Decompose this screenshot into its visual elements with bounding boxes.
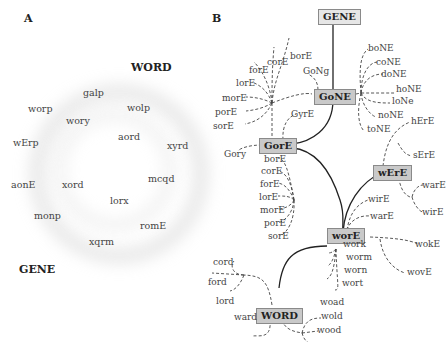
- leaf-word: lorE: [259, 193, 278, 202]
- leaf-word: sorE: [213, 122, 234, 131]
- leaf-word: woad: [320, 298, 344, 307]
- leaf-word: lorE: [236, 79, 255, 88]
- leaf-word: warE: [422, 181, 446, 190]
- leaf-word: ward: [234, 313, 257, 322]
- leaf-word: cord: [213, 258, 234, 267]
- leaf-word: loNe: [392, 97, 414, 106]
- leaf-word: ford: [208, 278, 227, 287]
- leaf-word: forE: [249, 66, 269, 75]
- leaf-word: worn: [344, 266, 367, 275]
- leaf-word: sErE: [413, 151, 435, 160]
- leaf-word: wirE: [422, 208, 443, 217]
- leaf-word: hErE: [411, 117, 434, 126]
- leaf-word: borE: [290, 52, 312, 61]
- leaf-word: doNE: [381, 70, 407, 79]
- leaf-word: worm: [346, 253, 372, 262]
- leaf-word: warE: [370, 212, 394, 221]
- leaf-word: coNE: [376, 58, 401, 67]
- leaf-word: wold: [321, 312, 343, 321]
- leaf-word: wokE: [415, 240, 440, 249]
- leaf-word: wood: [317, 326, 341, 335]
- leaf-word: wovE: [407, 268, 432, 277]
- node-gone: GoNE: [314, 89, 356, 105]
- leaf-word: hoNE: [396, 85, 422, 94]
- leaf-word: forE: [260, 180, 280, 189]
- leaf-word: sorE: [268, 232, 289, 241]
- leaf-word: work: [343, 240, 366, 249]
- node-gore: GorE: [259, 138, 297, 154]
- leaf-word: borE: [264, 155, 286, 164]
- leaf-word: toNE: [367, 125, 390, 134]
- node-word: WORD: [256, 308, 303, 324]
- leaf-word: morE: [222, 94, 247, 103]
- leaf-word: corE: [261, 167, 282, 176]
- leaf-word: corE: [267, 58, 288, 67]
- leaf-word: noNE: [378, 111, 404, 120]
- leaf-word: porE: [215, 108, 237, 117]
- node-gene: GENE: [318, 9, 361, 25]
- leaf-word: wirE: [368, 195, 389, 204]
- node-were: wErE: [373, 165, 412, 181]
- leaf-word: porE: [264, 219, 286, 228]
- leaf-word: boNE: [368, 44, 394, 53]
- leaf-word: wort: [342, 279, 363, 288]
- leaf-word: lord: [216, 297, 234, 306]
- leaf-word: GoNg: [303, 67, 329, 76]
- leaf-word: Gory: [224, 150, 246, 159]
- leaf-word: GyrE: [291, 110, 314, 119]
- leaf-word: morE: [260, 206, 285, 215]
